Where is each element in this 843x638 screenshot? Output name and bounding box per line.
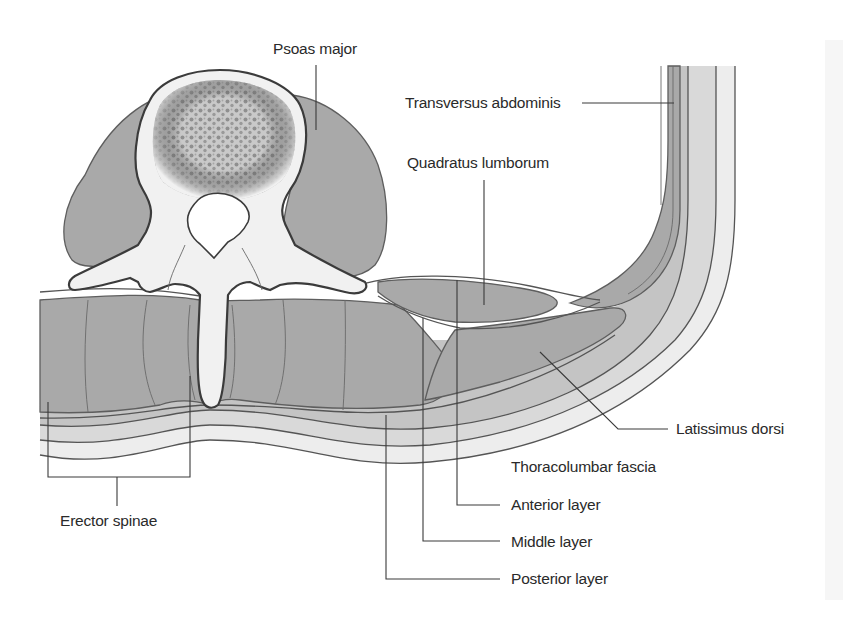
- label-anterior-layer: Anterior layer: [511, 496, 600, 513]
- label-middle-layer: Middle layer: [511, 533, 592, 550]
- label-quadratus-lumborum: Quadratus lumborum: [407, 154, 549, 171]
- label-latissimus-dorsi: Latissimus dorsi: [676, 420, 784, 437]
- transversus-abdominis: [570, 66, 680, 308]
- anatomy-diagram: Psoas major Transversus abdominis Quadra…: [0, 0, 843, 638]
- label-transversus-abdominis: Transversus abdominis: [405, 94, 561, 111]
- erector-spinae: [40, 295, 455, 412]
- label-posterior-layer: Posterior layer: [511, 570, 608, 587]
- label-thoracolumbar-fascia: Thoracolumbar fascia: [511, 458, 657, 475]
- label-erector-spinae: Erector spinae: [60, 512, 157, 529]
- label-psoas-major: Psoas major: [273, 40, 357, 57]
